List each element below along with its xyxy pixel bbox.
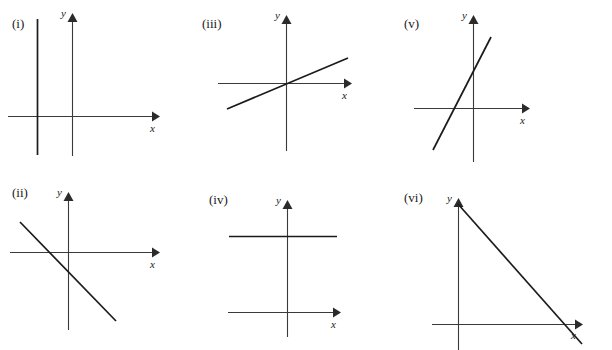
y-axis-label: y [447, 193, 452, 204]
graph-line-vi [458, 204, 582, 344]
x-axis-label: x [571, 330, 576, 341]
x-axis-arrow-icon [575, 320, 583, 330]
figure-canvas: (i) y x (iii) y x (v) [0, 0, 612, 350]
panel-vi-plot [0, 0, 612, 350]
